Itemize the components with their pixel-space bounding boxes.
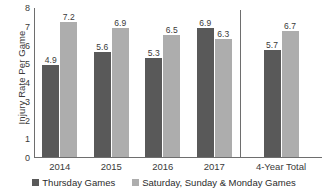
bar-value-label: 6.9	[114, 18, 126, 28]
legend-item: Thursday Games	[32, 177, 115, 188]
bar-group: 6.96.3	[197, 8, 232, 157]
bar-thursday: 6.9	[197, 28, 214, 157]
bar-thursday: 5.6	[94, 52, 111, 157]
y-tick-label: 4	[2, 78, 30, 88]
x-axis-line	[34, 157, 322, 158]
y-tick-label: 3	[2, 97, 30, 107]
y-tick-label: 6	[2, 41, 30, 51]
x-tick-label: 2016	[152, 161, 173, 172]
bar-weekend: 6.7	[282, 31, 299, 157]
x-tick-label: 2015	[101, 161, 122, 172]
bar-weekend: 6.9	[112, 28, 129, 157]
x-tick-label: 2014	[49, 161, 70, 172]
dark-square-icon	[32, 179, 39, 186]
bar-value-label: 6.5	[166, 25, 178, 35]
bar-value-label: 6.7	[284, 21, 296, 31]
x-tick-label: 4-Year Total	[256, 161, 306, 172]
group-divider-line	[240, 10, 241, 158]
y-tick-label: 7	[2, 22, 30, 32]
plot-area: 4.97.25.66.95.36.56.96.35.76.7	[34, 8, 322, 158]
bar-weekend: 7.2	[60, 22, 77, 157]
chart-legend: Thursday GamesSaturday, Sunday & Monday …	[0, 177, 328, 188]
bar-value-label: 7.2	[63, 12, 75, 22]
bar-weekend: 6.3	[215, 39, 232, 157]
bar-thursday: 4.9	[42, 65, 59, 157]
bar-group: 5.36.5	[145, 8, 180, 157]
y-axis-ticks: 876543210	[0, 0, 34, 158]
bar-group: 5.76.7	[264, 8, 299, 157]
legend-label: Thursday Games	[42, 177, 115, 188]
bar-value-label: 4.9	[45, 55, 57, 65]
y-tick-label: 2	[2, 116, 30, 126]
y-tick-label: 0	[2, 153, 30, 163]
bar-group: 5.66.9	[94, 8, 129, 157]
bar-weekend: 6.5	[163, 35, 180, 157]
bar-value-label: 5.6	[96, 42, 108, 52]
bar-chart: Injury Rate Per Game 876543210 4.97.25.6…	[0, 0, 328, 195]
bar-value-label: 5.3	[148, 48, 160, 58]
legend-label: Saturday, Sunday & Monday Games	[142, 177, 296, 188]
bar-value-label: 6.3	[217, 29, 229, 39]
y-tick-label: 8	[2, 3, 30, 13]
y-tick-label: 1	[2, 134, 30, 144]
y-axis-line	[34, 8, 35, 158]
bar-group: 4.97.2	[42, 8, 77, 157]
bar-thursday: 5.3	[145, 58, 162, 157]
light-square-icon	[132, 179, 139, 186]
x-tick-label: 2017	[204, 161, 225, 172]
legend-item: Saturday, Sunday & Monday Games	[132, 177, 296, 188]
y-tick-label: 5	[2, 59, 30, 69]
bar-value-label: 5.7	[266, 40, 278, 50]
bar-value-label: 6.9	[199, 18, 211, 28]
bar-thursday: 5.7	[264, 50, 281, 157]
